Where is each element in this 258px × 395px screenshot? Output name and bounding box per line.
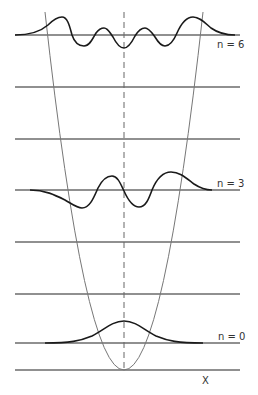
label-n3: n = 3 [217, 178, 244, 189]
label-x-axis: X [202, 375, 209, 386]
harmonic-oscillator-diagram: n = 6 n = 3 n = 0 X [0, 0, 258, 395]
label-n0: n = 0 [218, 331, 245, 342]
label-n6: n = 6 [217, 39, 244, 50]
